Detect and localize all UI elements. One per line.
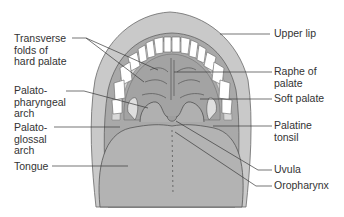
label-transverse-folds: Transverse folds of hard palate (14, 33, 67, 68)
label-palatine-tonsil: Palatine tonsil (274, 120, 312, 143)
label-tongue: Tongue (14, 161, 48, 173)
label-soft-palate: Soft palate (274, 93, 324, 105)
label-palatoglossal-arch: Palato- glossal arch (14, 122, 47, 157)
label-palatopharyngeal-arch: Palato- pharyngeal arch (14, 85, 66, 120)
label-oropharynx: Oropharynx (274, 180, 329, 192)
label-raphe-of-palate: Raphe of palate (274, 66, 317, 89)
label-uvula: Uvula (274, 164, 301, 176)
label-upper-lip: Upper lip (274, 28, 316, 40)
oral-cavity-diagram: Transverse folds of hard palate Palato- … (0, 0, 344, 217)
